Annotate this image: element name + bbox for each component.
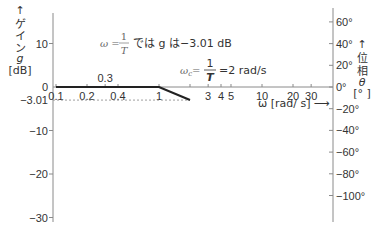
annotation-omega-eq: ω =: [100, 38, 120, 49]
x-axis-label: ω [rad/ s] ⟶: [258, 97, 330, 110]
annotation-minus3db: ω = 1 T では g は−3.01 dB: [100, 31, 232, 56]
right-tick-label: −60°: [336, 146, 359, 158]
right-tick-label: 60°: [336, 16, 353, 28]
right-tick-label: −40°: [336, 124, 359, 136]
left-tick-label: 0: [42, 81, 48, 93]
right-axis-title-part: ↑: [357, 38, 366, 51]
left-axis-title: ↑ゲインg[dB]: [8, 4, 31, 77]
right-tick-label: 20°: [336, 59, 353, 71]
x-tick-label: 0.3: [97, 72, 112, 84]
right-tick-label: 0°: [336, 81, 347, 93]
left-tick-label: −30: [29, 212, 48, 224]
annotation2-frac-den: T: [206, 71, 215, 84]
annotation-text: では g は−3.01 dB: [133, 37, 232, 50]
right-axis-title-part: 位: [357, 51, 368, 65]
bode-chart: 100−3.01−10−20−30 60°40°20°0°−20°−40°−60…: [0, 0, 378, 230]
right-tick-label: −20°: [336, 103, 359, 115]
annotation-frac-den: T: [121, 45, 129, 56]
left-tick-label: −10: [29, 125, 48, 137]
annotation-omega-c: ωc=: [180, 65, 200, 78]
right-axis-title-part: [° ]: [353, 87, 371, 100]
annotation-frac-num: 1: [121, 31, 127, 42]
right-axis-title: ↑位相θ[° ]: [353, 38, 371, 100]
left-axis-title-part: [dB]: [8, 64, 31, 77]
left-tick-label: −20: [29, 168, 48, 180]
annotation2-frac-num: 1: [207, 57, 214, 70]
left-tick-label: −3.01: [20, 94, 48, 106]
right-tick-label: −100°: [336, 190, 365, 202]
annotation-corner-frequency: ωc= 1 T =2 rad/s: [180, 57, 267, 84]
annotation2-text: =2 rad/s: [219, 64, 267, 77]
right-tick-label: 40°: [336, 38, 353, 50]
x-tick-label: 4: [218, 90, 224, 102]
right-tick-label: −80°: [336, 168, 359, 180]
left-tick-label: 10: [36, 38, 48, 50]
left-axis-title-part: ↑: [15, 4, 24, 17]
x-tick-label: 3: [205, 90, 211, 102]
x-tick-label: 5: [228, 90, 234, 102]
